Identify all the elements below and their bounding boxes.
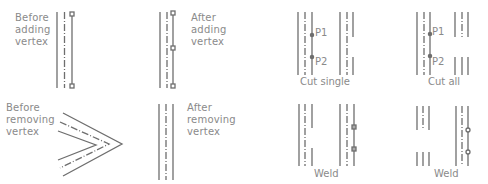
cut-single-p2-label: P2 — [315, 56, 327, 68]
vertex-grip-icon — [171, 11, 175, 15]
vertex-grip-icon — [466, 128, 470, 132]
cut-all-after — [455, 12, 468, 75]
vertex-grip-icon — [171, 46, 175, 50]
pick-point-icon — [310, 55, 313, 58]
weld-all-before — [417, 106, 429, 166]
cut-single-before — [298, 12, 314, 75]
vertex-grip-icon — [352, 147, 356, 151]
vertex-grip-icon — [70, 12, 74, 16]
weld-single-before — [299, 104, 312, 166]
weld-all-caption: Weld — [434, 168, 459, 180]
cut-all-before — [417, 12, 432, 75]
after-adding-multiline — [160, 11, 175, 88]
weld-single-caption: Weld — [314, 168, 339, 180]
pick-point-icon — [310, 33, 313, 36]
cut-all-p2-label: P2 — [432, 56, 444, 68]
cut-single-p1-label: P1 — [315, 27, 327, 39]
after-removing-label: After removing vertex — [187, 102, 236, 138]
vertex-grip-icon — [352, 125, 356, 129]
before-adding-label: Before adding vertex — [15, 12, 51, 48]
weld-all-after — [456, 106, 470, 166]
before-removing-multiline — [58, 113, 122, 176]
after-adding-label: After adding vertex — [191, 12, 227, 48]
cut-single-caption: Cut single — [300, 76, 350, 88]
cut-all-p1-label: P1 — [432, 26, 444, 38]
cut-all-caption: Cut all — [428, 76, 460, 88]
before-removing-label: Before removing vertex — [6, 102, 55, 138]
vertex-grip-icon — [70, 84, 74, 88]
after-removing-multiline — [159, 104, 173, 180]
cut-single-after — [340, 12, 353, 75]
vertex-grip-icon — [171, 84, 175, 88]
vertex-grip-icon — [466, 150, 470, 154]
weld-single-after — [340, 104, 356, 166]
before-adding-multiline — [57, 12, 74, 88]
multiline-edit-diagram — [0, 0, 488, 184]
